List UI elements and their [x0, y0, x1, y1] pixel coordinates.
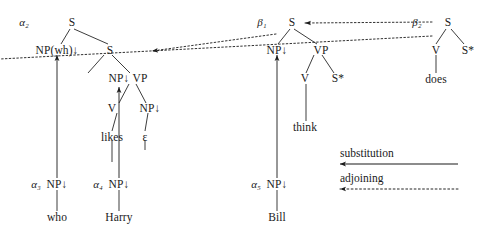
tree-label-beta2: β₂: [412, 16, 421, 28]
node-alpha2-v: V: [108, 102, 116, 114]
node-alpha2-np-subject: NP↓: [109, 72, 130, 84]
leaf-likes: likes: [101, 131, 123, 143]
node-beta1-v: V: [301, 72, 309, 84]
node-alpha4-np: NP↓: [109, 178, 130, 190]
leaf-epsilon: ε: [143, 131, 148, 143]
tree-label-alpha4: α₄: [93, 178, 103, 190]
node-beta1-vp: VP: [314, 44, 329, 56]
legend-substitution-label: substitution: [340, 147, 394, 159]
node-alpha2-vp: VP: [133, 72, 148, 84]
node-alpha5-np: NP↓: [267, 178, 288, 190]
legend-adjoining-label: adjoining: [340, 172, 383, 184]
tree-label-alpha3: α₃: [31, 178, 41, 190]
leaf-bill: Bill: [268, 211, 286, 223]
node-alpha2-np-object: NP↓: [140, 102, 161, 114]
node-alpha3-np: NP↓: [47, 178, 68, 190]
leaf-think: think: [293, 121, 317, 133]
node-alpha2-s-lower: S: [107, 44, 114, 56]
node-alpha2-s-root: S: [69, 16, 76, 28]
tree-label-beta1: β₁: [257, 16, 266, 28]
tree-label-alpha5: α₅: [251, 178, 261, 190]
node-beta1-s-root: S: [289, 16, 296, 28]
node-beta2-v: V: [432, 44, 440, 56]
node-beta1-np: NP↓: [267, 44, 288, 56]
node-beta2-s-root: S: [445, 16, 452, 28]
leaf-does: does: [425, 73, 446, 85]
tree-label-alpha2: α₂: [19, 16, 29, 28]
leaf-harry: Harry: [105, 211, 132, 223]
leaf-who: who: [47, 211, 67, 223]
substitution-arrows: [57, 55, 277, 178]
diagram-edges: [0, 0, 487, 228]
node-beta2-foot-s-star: S*: [462, 44, 474, 56]
node-beta1-foot-s-star: S*: [332, 72, 344, 84]
node-alpha2-np-wh: NP(wh)↓: [36, 44, 79, 56]
tag-derivation-diagram: α₂ β₁ β₂ α₃ α₄ α₅ S NP(wh)↓ S NP↓ VP V N…: [0, 0, 487, 228]
